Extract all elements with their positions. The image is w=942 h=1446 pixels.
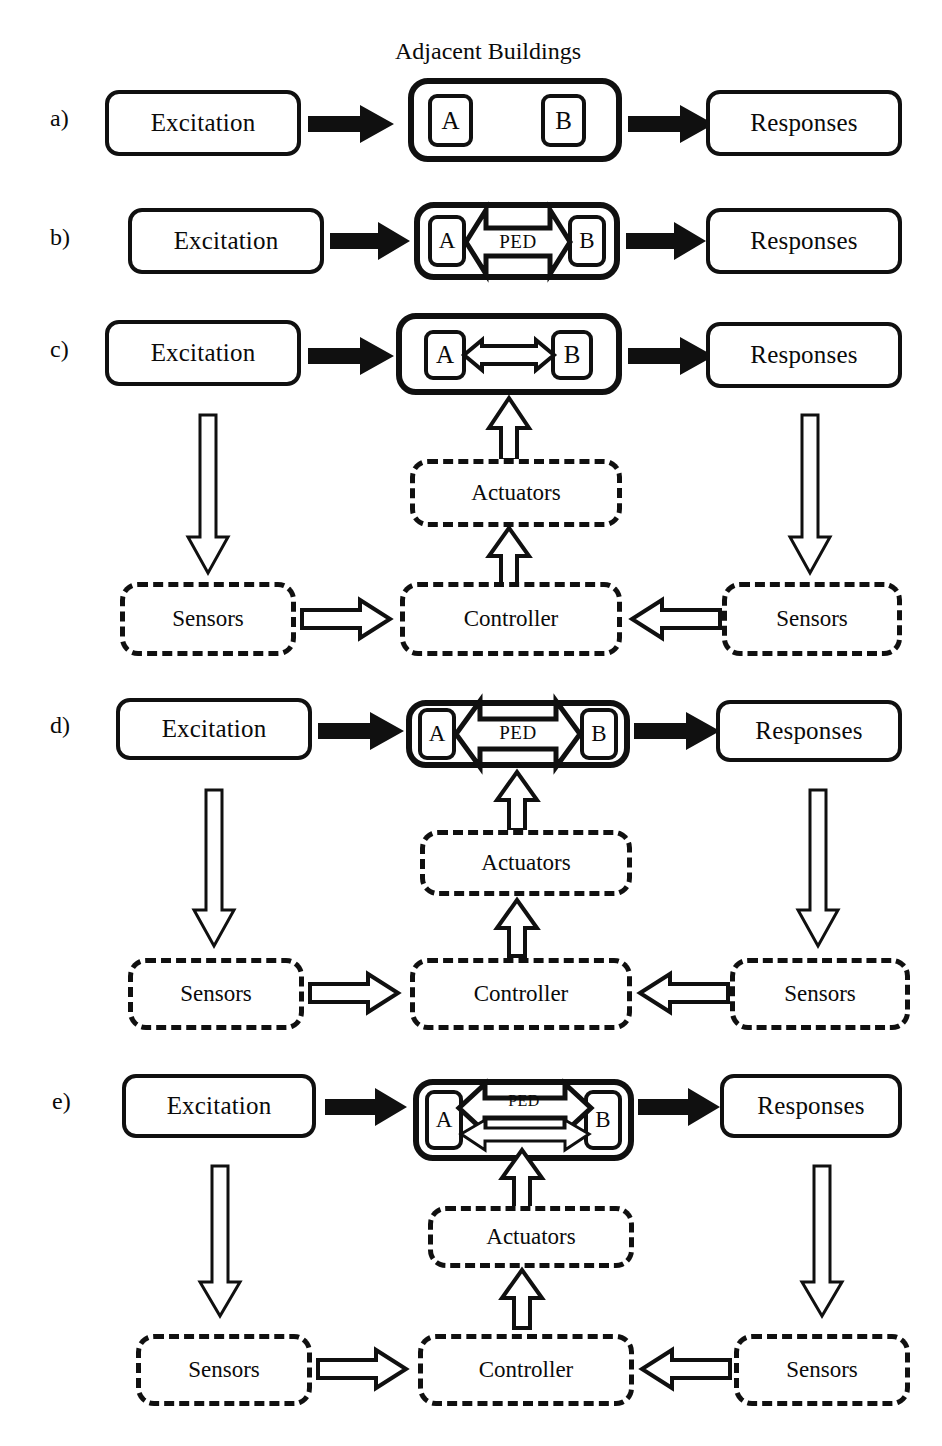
actuators-box-c: Actuators (410, 459, 622, 527)
up-arrow-c-actuators-to-building (487, 396, 531, 462)
responses-box-b: Responses (706, 208, 902, 274)
sensors-box-e-left: Sensors (136, 1334, 312, 1406)
sensors-box-c-right: Sensors (722, 582, 902, 656)
down-arrow-e-right (800, 1166, 844, 1318)
flow-arrow-c-left (308, 337, 394, 375)
flow-arrow-e-right (638, 1088, 720, 1126)
left-arrow-c-sensors-to-controller (630, 598, 722, 640)
controller-box-d: Controller (410, 958, 632, 1030)
excitation-box-b: Excitation (128, 208, 324, 274)
ped-double-arrow-b (464, 206, 572, 278)
actuators-box-e: Actuators (428, 1206, 634, 1268)
flow-arrow-b-left (330, 222, 410, 260)
up-arrow-d-controller-to-actuators (495, 898, 539, 958)
building-b-box-b: B (568, 215, 606, 267)
responses-box-e: Responses (720, 1074, 902, 1138)
excitation-box-e: Excitation (122, 1074, 316, 1138)
left-arrow-d-sensors-to-controller (638, 972, 730, 1014)
up-arrow-e-controller-to-actuators (500, 1268, 544, 1330)
left-arrow-e-sensors-to-controller (640, 1348, 732, 1390)
flow-arrow-c-right (628, 337, 714, 375)
controller-box-e: Controller (418, 1334, 634, 1406)
up-arrow-e-actuators-to-building (500, 1148, 544, 1210)
excitation-box-d: Excitation (116, 698, 312, 760)
sensors-box-c-left: Sensors (120, 582, 296, 656)
building-a-box-a: A (428, 94, 473, 147)
sensors-box-d-left: Sensors (128, 958, 304, 1030)
flow-arrow-d-right (634, 712, 720, 750)
ped-double-arrow-d (452, 695, 584, 773)
down-arrow-e-left (198, 1166, 242, 1318)
sensors-box-e-right: Sensors (734, 1334, 910, 1406)
responses-box-c: Responses (706, 322, 902, 388)
right-arrow-d-sensors-to-controller (308, 972, 400, 1014)
row-label-b: b) (50, 224, 70, 251)
flow-arrow-b-right (626, 222, 706, 260)
excitation-box-c: Excitation (105, 320, 301, 386)
actuators-box-d: Actuators (420, 830, 632, 896)
row-label-e: e) (52, 1088, 71, 1115)
flow-arrow-e-left (325, 1088, 407, 1126)
row-label-d: d) (50, 712, 70, 739)
building-b-box-c: B (551, 330, 593, 380)
flow-arrow-a-left (308, 105, 394, 143)
excitation-box-a: Excitation (105, 90, 301, 156)
building-b-box-d: B (580, 708, 618, 760)
up-arrow-c-controller-to-actuators (487, 526, 531, 586)
row-label-a: a) (50, 105, 69, 132)
building-a-box-b: A (428, 215, 466, 267)
flow-arrow-d-left (318, 712, 404, 750)
responses-box-d: Responses (716, 700, 902, 762)
right-arrow-c-sensors-to-controller (300, 598, 392, 640)
up-arrow-d-actuators-to-building (495, 770, 539, 832)
responses-box-a: Responses (706, 90, 902, 156)
right-arrow-e-sensors-to-controller (316, 1348, 408, 1390)
building-b-box-a: B (541, 94, 586, 147)
coupling-double-arrow-c (462, 336, 556, 374)
building-a-box-d: A (418, 708, 456, 760)
down-arrow-d-right (796, 790, 840, 948)
flow-arrow-a-right (628, 105, 714, 143)
figure-title: Adjacent Buildings (395, 38, 581, 65)
controller-box-c: Controller (400, 582, 622, 656)
down-arrow-c-right (788, 415, 832, 575)
sensors-box-d-right: Sensors (730, 958, 910, 1030)
down-arrow-c-left (186, 415, 230, 575)
row-label-c: c) (50, 336, 69, 363)
figure-canvas: a) Adjacent Buildings Excitation A B Res… (0, 0, 942, 1446)
down-arrow-d-left (192, 790, 236, 948)
building-a-box-c: A (424, 330, 466, 380)
